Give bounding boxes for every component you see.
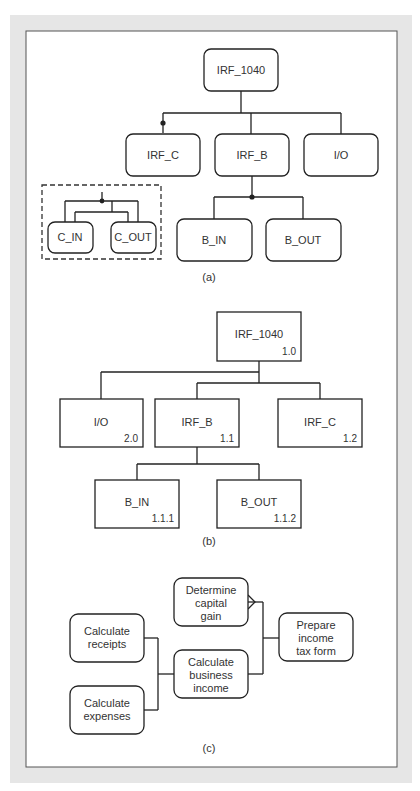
node-label: B_OUT [241, 496, 278, 508]
node-label: B_OUT [285, 234, 322, 246]
node-label: capital [195, 597, 227, 609]
node-number: 1.2 [343, 433, 357, 444]
node-label: IRF_1040 [235, 328, 283, 340]
node-label: IRF_1040 [217, 64, 265, 76]
node-label: business [189, 669, 233, 681]
node-label: expenses [83, 710, 131, 722]
node-label: I/O [334, 149, 349, 161]
caption-a: (a) [202, 271, 215, 283]
node-label: Calculate [84, 697, 130, 709]
node-label: B_IN [125, 496, 150, 508]
node-label: income [298, 632, 333, 644]
node-number: 1.1 [220, 433, 234, 444]
node-label: IRF_B [236, 149, 267, 161]
node-label: B_IN [202, 234, 227, 246]
node-label: tax form [296, 645, 336, 657]
node-number: 1.1.2 [274, 513, 297, 524]
figure: IRF_1040 IRF_C IRF_B I/O B_IN B_OUT C_IN… [0, 0, 420, 791]
node-label: IRF_C [304, 416, 336, 428]
node-number: 1.0 [282, 346, 296, 357]
node-label: IRF_C [147, 149, 179, 161]
node-label: income [193, 682, 228, 694]
node-number: 1.1.1 [152, 513, 175, 524]
node-label: Calculate [84, 625, 130, 637]
node-number: 2.0 [124, 433, 138, 444]
caption-c: (c) [203, 742, 216, 754]
node-label: receipts [88, 638, 127, 650]
node-label: C_OUT [114, 231, 152, 243]
node-label: IRF_B [181, 416, 212, 428]
node-label: Determine [186, 584, 237, 596]
node-label: C_IN [57, 231, 82, 243]
node-label: gain [201, 610, 222, 622]
caption-b: (b) [202, 535, 215, 547]
node-label: Prepare [296, 619, 335, 631]
node-label: I/O [94, 416, 109, 428]
node-label: Calculate [188, 656, 234, 668]
